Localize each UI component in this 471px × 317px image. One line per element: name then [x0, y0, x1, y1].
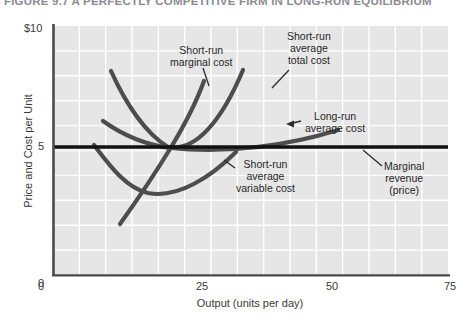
x-axis-tick-25: 25 — [196, 280, 208, 292]
x-axis-tick-75: 75 — [444, 280, 456, 292]
y-axis-tick-10: $10 — [24, 22, 42, 34]
x-axis-tick-0: 0 — [38, 280, 44, 292]
label-srmc-line1: Short-run — [170, 44, 232, 56]
label-mr-line2: revenue — [384, 172, 424, 184]
x-axis-tick-50: 50 — [326, 280, 338, 292]
figure-container: FIGURE 9.7 A PERFECTLY COMPETITIVE FIRM … — [0, 0, 471, 317]
label-sravc-line3: variable cost — [236, 182, 295, 194]
y-axis-tick-5: 5 — [38, 140, 44, 152]
label-lrac-line2: average cost — [305, 122, 365, 134]
label-marginal-revenue: Marginal revenue (price) — [384, 160, 424, 196]
label-sratc-line2: average — [287, 42, 331, 54]
label-sratc-line3: total cost — [287, 54, 331, 66]
x-axis-title: Output (units per day) — [130, 297, 370, 309]
label-mr-line1: Marginal — [384, 160, 424, 172]
label-mr-line3: (price) — [384, 184, 424, 196]
y-axis-title: Price and Cost per Unit — [22, 71, 34, 231]
label-srmc-line2: marginal cost — [170, 56, 232, 68]
label-sravc-line2: average — [236, 170, 295, 182]
label-short-run-marginal-cost: Short-run marginal cost — [170, 44, 232, 68]
label-short-run-average-variable-cost: Short-run average variable cost — [236, 158, 295, 194]
label-sratc-line1: Short-run — [287, 30, 331, 42]
label-sravc-line1: Short-run — [236, 158, 295, 170]
label-long-run-average-cost: Long-run average cost — [305, 110, 365, 134]
label-short-run-average-total-cost: Short-run average total cost — [287, 30, 331, 66]
label-lrac-line1: Long-run — [305, 110, 365, 122]
